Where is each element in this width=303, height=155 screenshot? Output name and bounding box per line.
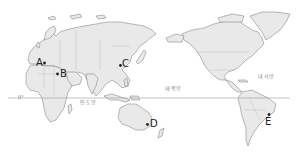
japan: [136, 50, 146, 64]
north-america: [182, 20, 264, 80]
point-label-b: B: [60, 69, 67, 79]
australia: [118, 104, 152, 130]
canadian-arctic-islands: [218, 14, 244, 22]
point-label-d: D: [150, 119, 158, 129]
madagascar: [68, 104, 72, 114]
novaya-zemlya: [70, 14, 82, 19]
svalbard: [48, 16, 56, 20]
ocean-label-pacific: 태평양: [165, 86, 182, 91]
marker-dot-a: [43, 62, 46, 65]
equator-degree-label: 0°: [18, 95, 24, 100]
marker-dot-b: [56, 73, 59, 76]
new-zealand: [158, 128, 164, 138]
ocean-label-atlantic: 대서양: [258, 74, 275, 79]
marker-dot-d: [146, 123, 149, 126]
alaska: [166, 34, 184, 42]
severnaya-zemlya: [96, 15, 106, 19]
point-label-c: C: [122, 59, 129, 69]
cuba: [238, 80, 248, 82]
ocean-label-indian: 인도양: [80, 100, 97, 105]
point-label-a: A: [36, 58, 43, 68]
point-label-e: E: [265, 117, 271, 127]
